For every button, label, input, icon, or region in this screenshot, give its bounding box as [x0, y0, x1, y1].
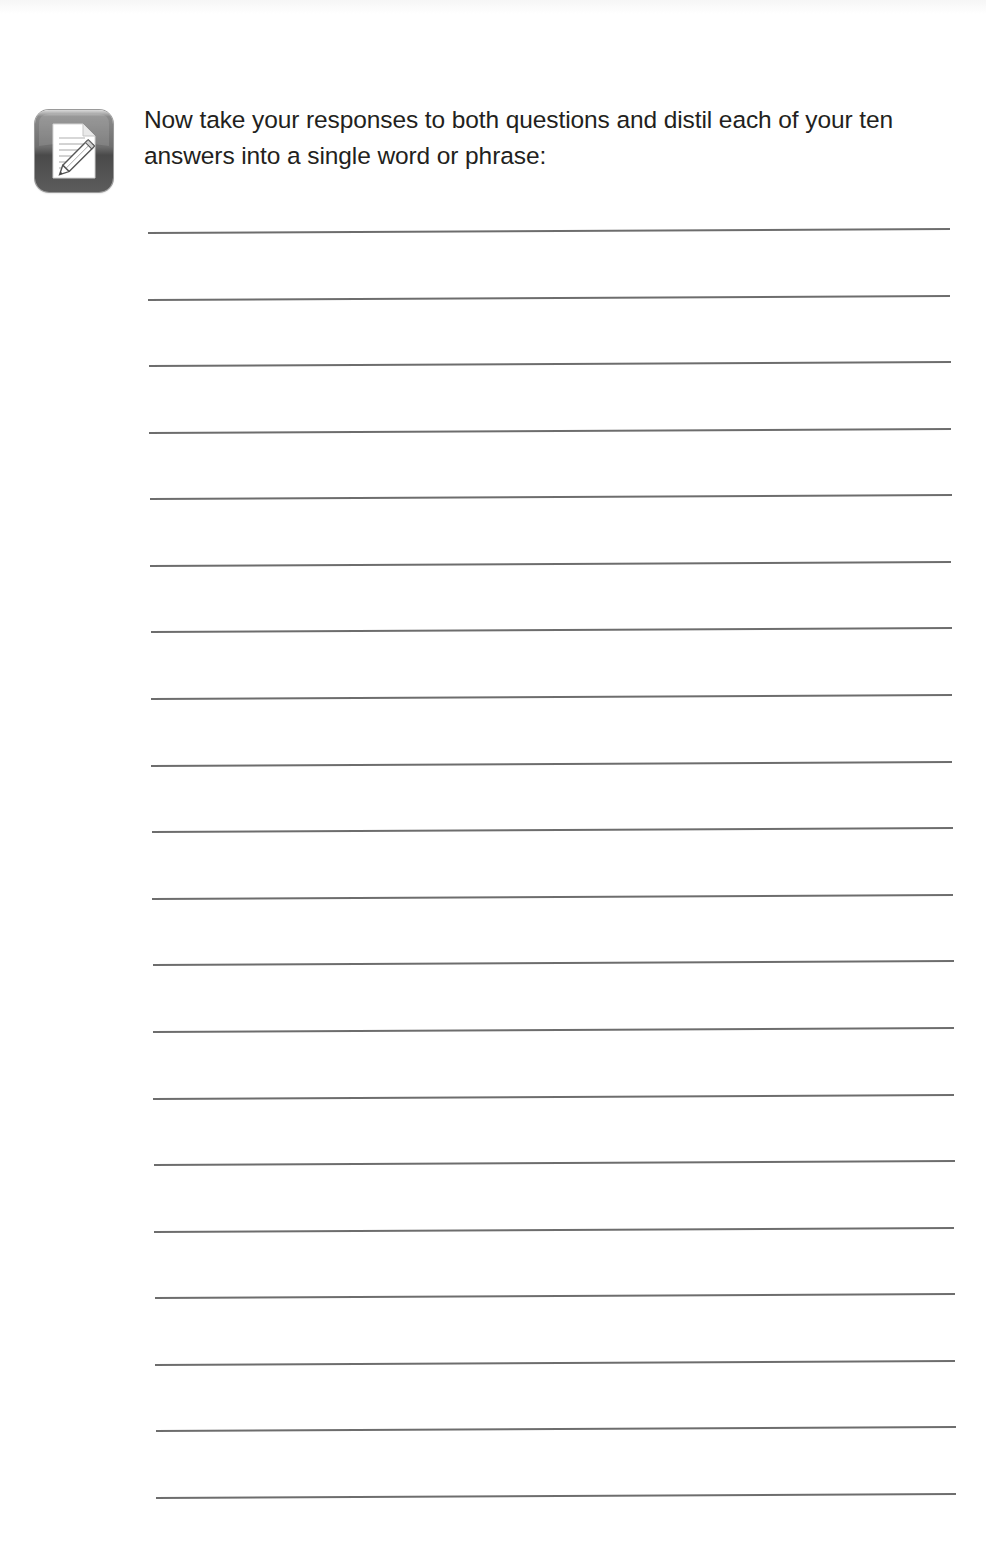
answer-line-4[interactable] [149, 428, 951, 434]
answer-line-14[interactable] [153, 1094, 954, 1100]
answer-line-16[interactable] [154, 1227, 954, 1233]
answer-line-12[interactable] [153, 960, 954, 966]
answer-line-5[interactable] [150, 494, 952, 500]
answer-line-18[interactable] [155, 1360, 955, 1366]
answer-line-8[interactable] [151, 694, 952, 700]
answer-line-13[interactable] [153, 1027, 954, 1033]
answer-line-10[interactable] [152, 827, 953, 833]
answer-line-19[interactable] [156, 1426, 956, 1432]
answer-line-7[interactable] [151, 628, 952, 634]
answer-line-1[interactable] [148, 228, 950, 234]
answer-line-15[interactable] [154, 1160, 955, 1166]
answer-line-3[interactable] [149, 361, 951, 367]
answer-line-20[interactable] [156, 1493, 956, 1499]
answer-line-6[interactable] [150, 561, 951, 567]
answer-line-17[interactable] [155, 1293, 955, 1299]
answer-lines [0, 0, 986, 1552]
answer-line-11[interactable] [152, 894, 953, 900]
answer-line-2[interactable] [148, 295, 950, 301]
answer-line-9[interactable] [151, 761, 952, 767]
